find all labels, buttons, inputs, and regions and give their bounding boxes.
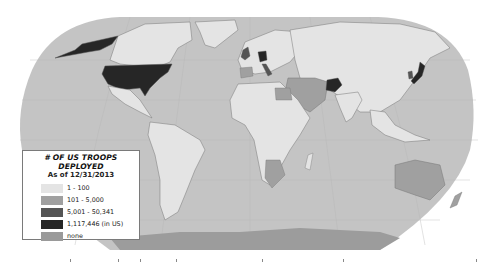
new-zealand	[450, 192, 462, 208]
legend-swatch	[41, 196, 63, 205]
egypt-region	[275, 88, 292, 100]
legend-item: 5,001 - 50,341	[41, 206, 135, 218]
legend-label: 1 - 100	[67, 184, 90, 192]
legend-label: 5,001 - 50,341	[67, 208, 114, 216]
tick	[262, 259, 263, 262]
tick	[176, 259, 177, 262]
tick	[476, 259, 477, 262]
south-korea	[408, 71, 413, 79]
legend-label: 101 - 5,000	[67, 196, 104, 204]
tick	[343, 259, 344, 262]
legend-swatch	[41, 208, 63, 217]
legend-swatch	[41, 220, 63, 229]
tick	[118, 259, 119, 262]
legend-subtitle: As of 12/31/2013	[27, 171, 135, 180]
legend-label: none	[67, 232, 83, 240]
legend-item: 101 - 5,000	[41, 194, 135, 206]
legend-swatch	[41, 232, 63, 241]
bottom-tick-marks	[0, 255, 498, 268]
legend-item: none	[41, 230, 135, 242]
map-legend: # OF US TROOPS DEPLOYED As of 12/31/2013…	[22, 150, 140, 240]
tick	[140, 259, 141, 262]
legend-label: 1,117,446 (in US)	[67, 220, 123, 228]
legend-title: # OF US TROOPS DEPLOYED	[27, 153, 135, 171]
spain	[240, 67, 253, 78]
legend-item: 1 - 100	[41, 182, 135, 194]
legend-item: 1,117,446 (in US)	[41, 218, 135, 230]
legend-swatch	[41, 184, 63, 193]
tick	[70, 259, 71, 262]
